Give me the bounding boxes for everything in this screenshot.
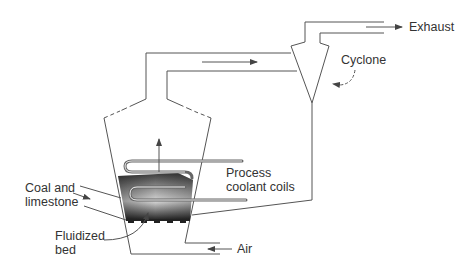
cyclone-leader xyxy=(333,70,355,85)
fbc-diagram: Exhaust Cyclone Process coolant coils Co… xyxy=(0,0,474,271)
fluidized-bed xyxy=(118,173,193,223)
air-label: Air xyxy=(237,242,252,256)
fluidized-label-2: bed xyxy=(55,243,76,257)
coolant-label-1: Process xyxy=(226,166,271,180)
coal-label-2: limestone xyxy=(25,195,79,209)
exhaust-label: Exhaust xyxy=(409,20,455,34)
fluidized-label-1: Fluidized xyxy=(55,229,105,243)
coal-label-1: Coal and xyxy=(25,181,75,195)
duct xyxy=(146,53,297,99)
cyclone-label: Cyclone xyxy=(341,53,386,67)
coolant-label-2: coolant coils xyxy=(226,180,295,194)
